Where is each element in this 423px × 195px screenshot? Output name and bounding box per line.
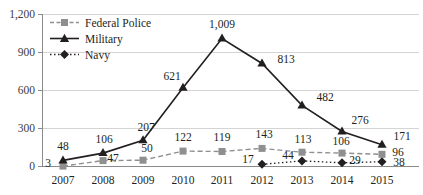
data-label-fp-2012: 143 [255, 128, 273, 140]
y-axis-labels: 1,200 900 600 300 0 [9, 8, 35, 172]
marker-square-2008 [100, 157, 107, 164]
navy-line [262, 161, 382, 164]
data-label-military-2008: 106 [95, 133, 113, 145]
data-label-military-2009: 207 [137, 121, 155, 133]
y-tick-label-1200: 1,200 [9, 8, 35, 21]
chart-legend: Federal Police Military Navy [50, 17, 151, 62]
line-chart: 1,200 900 600 300 0 2007 2008 2009 2010 … [0, 0, 423, 195]
chart-canvas: 1,200 900 600 300 0 2007 2008 2009 2010 … [0, 0, 423, 195]
data-label-military-2013: 482 [316, 91, 334, 103]
marker-triangle-2014 [337, 127, 346, 135]
y-tick-label-300: 300 [18, 122, 36, 134]
data-label-navy-2012: 17 [242, 153, 254, 165]
x-tick-label-2008: 2008 [92, 174, 115, 186]
legend-marker-diamond [60, 50, 69, 59]
marker-diamond-2013 [298, 156, 307, 165]
marker-square-2015 [379, 151, 386, 158]
data-label-navy-2014: 29 [349, 154, 361, 166]
marker-square-2011 [219, 148, 226, 155]
legend-item-military[interactable]: Military [50, 33, 123, 46]
x-tick-label-2011: 2011 [211, 174, 234, 186]
x-tick-label-2014: 2014 [331, 174, 354, 186]
marker-square-2014 [339, 150, 346, 157]
data-label-military-2011: 1,009 [209, 18, 235, 31]
x-tick-label-2007: 2007 [52, 174, 75, 186]
marker-square-2010 [180, 148, 187, 155]
y-tick-label-900: 900 [18, 46, 36, 58]
data-label-fp-2010: 122 [174, 131, 192, 143]
marker-diamond-2015 [378, 157, 387, 166]
y-tick-label-0: 0 [29, 160, 35, 172]
x-tick-label-2013: 2013 [291, 174, 314, 186]
x-tick-label-2009: 2009 [132, 174, 155, 186]
data-label-navy-2015: 38 [393, 156, 405, 168]
legend-item-navy[interactable]: Navy [50, 49, 110, 62]
data-label-fp-2011: 119 [214, 131, 231, 143]
marker-diamond-2012 [258, 160, 267, 169]
data-label-fp-2008: 47 [107, 152, 119, 164]
data-label-military-2007: 48 [57, 140, 69, 152]
marker-square-2007 [60, 163, 67, 170]
data-label-navy-2013: 44 [282, 149, 294, 161]
x-axis-labels: 2007 2008 2009 2010 2011 2012 2013 2014 … [52, 174, 394, 186]
data-label-military-2012: 813 [277, 53, 295, 65]
data-label-fp-2007: 3 [45, 157, 51, 169]
legend-label-navy: Navy [85, 49, 110, 62]
data-label-fp-2013: 113 [295, 133, 312, 145]
marker-triangle-2012 [257, 59, 266, 67]
x-tick-label-2015: 2015 [371, 174, 394, 186]
data-label-fp-2014: 106 [332, 135, 350, 147]
legend-label-federal-police: Federal Police [85, 17, 151, 29]
x-tick-label-2010: 2010 [172, 174, 195, 186]
marker-triangle-2011 [217, 34, 226, 42]
data-label-fp-2009: 50 [141, 142, 153, 154]
data-label-military-2014: 276 [351, 114, 369, 126]
legend-marker-square [61, 19, 68, 26]
data-label-military-2015: 171 [393, 130, 411, 142]
x-tick-label-2012: 2012 [251, 174, 274, 186]
marker-square-2013 [299, 149, 306, 156]
legend-label-military: Military [85, 33, 123, 46]
y-tick-label-600: 600 [18, 84, 36, 96]
marker-diamond-2014 [338, 158, 347, 167]
data-label-military-2010: 621 [163, 70, 181, 82]
legend-item-federal-police[interactable]: Federal Police [50, 17, 151, 29]
marker-square-2009 [140, 157, 147, 164]
marker-square-2012 [259, 145, 266, 152]
